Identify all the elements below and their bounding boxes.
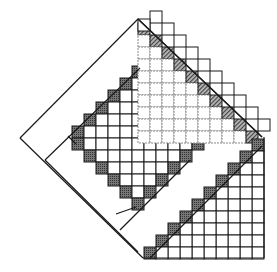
top-right-triangle-grid (138, 11, 270, 143)
proof-diagram (0, 0, 277, 272)
